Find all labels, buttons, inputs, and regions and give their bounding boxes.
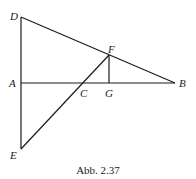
geometry-figure: D A E C G F B Abb. 2.37 [0, 0, 196, 179]
label-F: F [107, 43, 115, 55]
label-C: C [80, 87, 88, 99]
segment-EF [21, 55, 109, 149]
label-D: D [9, 10, 18, 22]
label-G: G [105, 87, 113, 99]
label-E: E [9, 149, 17, 161]
figure-caption: Abb. 2.37 [76, 164, 120, 176]
label-B: B [179, 77, 186, 89]
label-A: A [8, 77, 16, 89]
segment-DB [21, 17, 175, 83]
